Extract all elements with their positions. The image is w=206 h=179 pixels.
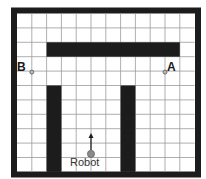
point-a-label: A: [167, 60, 176, 74]
arrow-head-icon: [89, 133, 94, 138]
point-b-label: B: [17, 60, 26, 74]
robot: [87, 133, 94, 158]
obstacles: [47, 42, 180, 172]
left-pillar-wall: [47, 86, 62, 172]
right-pillar-wall: [121, 86, 136, 172]
grid-world-diagram: [0, 0, 206, 179]
point-b-marker: [30, 70, 34, 74]
robot-label: Robot: [70, 156, 99, 168]
grid-lines: [17, 14, 195, 172]
top-bar-wall: [47, 42, 180, 56]
